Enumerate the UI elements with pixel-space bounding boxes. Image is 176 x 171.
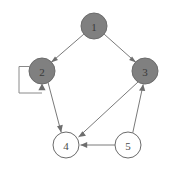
edge-3-to-4-line <box>79 82 139 137</box>
edge-2-to-4-line <box>48 82 61 132</box>
edge-5-to-3 <box>133 84 145 132</box>
edge-5-to-4 <box>81 142 116 148</box>
edge-5-to-3-arrowhead <box>139 84 145 91</box>
directed-graph-figure: 1 2 3 4 5 <box>0 0 176 171</box>
edge-3-to-4-arrowhead <box>79 131 87 137</box>
node-3-label: 3 <box>142 66 148 78</box>
edge-5-to-4-arrowhead <box>81 142 88 148</box>
edge-3-to-4 <box>79 82 139 137</box>
node-5-label: 5 <box>125 140 131 152</box>
node-3[interactable]: 3 <box>132 58 158 84</box>
edge-2-to-4 <box>48 82 63 132</box>
node-2-label: 2 <box>39 66 45 78</box>
edge-5-to-3-line <box>133 84 143 132</box>
edge-2-self-loop-arrowhead <box>38 84 45 91</box>
node-4[interactable]: 4 <box>53 132 79 158</box>
edge-1-to-3 <box>104 34 136 63</box>
node-4-label: 4 <box>63 140 69 152</box>
node-5[interactable]: 5 <box>115 132 141 158</box>
edge-2-to-4-arrowhead <box>57 125 63 133</box>
edge-layer <box>19 34 145 148</box>
node-1[interactable]: 1 <box>81 13 107 39</box>
node-2[interactable]: 2 <box>29 58 55 84</box>
edge-1-to-2 <box>51 34 84 63</box>
node-1-label: 1 <box>91 21 97 33</box>
